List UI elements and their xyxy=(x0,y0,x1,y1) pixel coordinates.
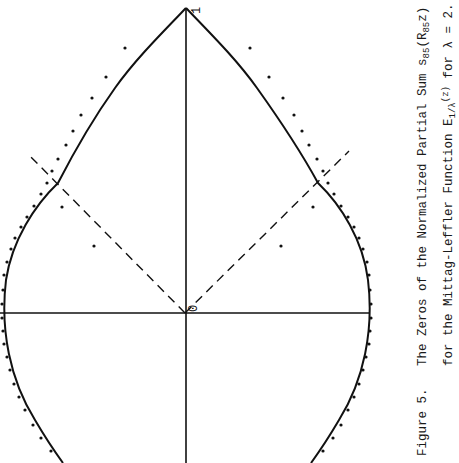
zero-dot xyxy=(361,247,364,250)
zero-dot xyxy=(49,449,52,452)
zero-dot xyxy=(25,215,28,218)
zero-dot xyxy=(365,260,368,263)
zero-dot xyxy=(31,423,34,426)
zero-dot xyxy=(321,449,324,452)
zero-dot xyxy=(315,157,318,160)
caption-suffix-2: for λ = 2. xyxy=(442,4,456,87)
zero-dot xyxy=(19,225,22,228)
zero-dot xyxy=(5,260,8,263)
figure-label: Figure 5. xyxy=(416,388,430,456)
zero-dot xyxy=(357,382,360,385)
caption-sub-2: 85 xyxy=(422,22,432,33)
zero-dot xyxy=(369,316,372,319)
zero-dot xyxy=(1,329,4,332)
zero-dot xyxy=(368,288,371,291)
zero-dot xyxy=(326,181,329,184)
caption-sup-z: (z) xyxy=(441,86,451,102)
zero-dot xyxy=(352,225,355,228)
caption-sub-1: 85 xyxy=(422,48,432,59)
zero-dot xyxy=(248,46,251,49)
zero-dot xyxy=(0,302,3,305)
zero-dot xyxy=(60,205,63,208)
zero-dot xyxy=(2,273,5,276)
label-one: 1 xyxy=(190,7,204,14)
zero-dot xyxy=(79,113,82,116)
zero-dot xyxy=(32,204,35,207)
zero-dot xyxy=(64,143,67,146)
caption-line-1: Figure 5. The Zeros of the Normalized Pa… xyxy=(416,7,432,456)
zero-dot xyxy=(9,247,12,250)
zero-dot xyxy=(357,236,360,239)
caption-text-2: for the Mittag-Leffler Function E xyxy=(442,118,456,366)
caption-text-1: The Zeros of the Normalized Partial Sum … xyxy=(416,58,430,366)
zero-dot xyxy=(331,436,334,439)
zero-dot xyxy=(8,368,11,371)
zero-dot xyxy=(300,129,303,132)
zero-dot xyxy=(364,355,367,358)
zero-dot xyxy=(71,129,74,132)
zero-dot xyxy=(45,181,48,184)
figure-plot xyxy=(0,0,459,463)
zero-dot xyxy=(368,329,371,332)
zero-dot xyxy=(279,244,282,247)
zero-dot xyxy=(352,395,355,398)
zero-dot xyxy=(0,316,3,319)
zero-dot xyxy=(1,288,4,291)
zero-dot xyxy=(13,236,16,239)
boundary-curve xyxy=(4,8,369,463)
zero-dot xyxy=(281,96,284,99)
zero-dot xyxy=(17,395,20,398)
zero-dot xyxy=(56,157,59,160)
zero-dot xyxy=(346,215,349,218)
zero-dot xyxy=(311,205,314,208)
zero-dot xyxy=(367,273,370,276)
zero-dot xyxy=(292,113,295,116)
zero-dot xyxy=(346,408,349,411)
zero-dot xyxy=(50,169,53,172)
caption-suffix-1: z) xyxy=(416,7,430,22)
caption-line-2: Figure 5. for the Mittag-Leffler Functio… xyxy=(441,4,458,456)
zero-dot xyxy=(92,244,95,247)
zero-dot xyxy=(369,302,372,305)
zero-dot xyxy=(332,192,335,195)
zero-dot xyxy=(307,143,310,146)
zero-dot xyxy=(23,408,26,411)
zero-dot xyxy=(104,75,107,78)
caption-mid-1: (R xyxy=(416,33,430,48)
zero-dot xyxy=(361,368,364,371)
zero-dot xyxy=(267,75,270,78)
zero-dot xyxy=(367,342,370,345)
zero-dot xyxy=(12,382,15,385)
zero-dot xyxy=(5,355,8,358)
zero-dot xyxy=(39,192,42,195)
zero-dot xyxy=(339,204,342,207)
zero-dot xyxy=(339,423,342,426)
zero-dot xyxy=(90,96,93,99)
dashed-ray-left xyxy=(27,153,185,313)
zero-dot xyxy=(123,46,126,49)
zero-dot xyxy=(321,169,324,172)
label-zero: 0 xyxy=(187,305,201,312)
zero-dot xyxy=(39,436,42,439)
dashed-ray-right xyxy=(185,151,349,313)
caption-sub-lambda: 1/λ xyxy=(448,102,458,118)
zero-dot xyxy=(2,342,5,345)
